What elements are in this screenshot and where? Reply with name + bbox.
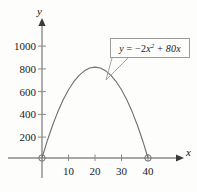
x-axis-tick-label-30: 30 [110, 166, 134, 177]
y-axis-label: y [37, 6, 42, 17]
x-axis-tick-label-40: 40 [136, 166, 160, 177]
y-axis-tick-label-1000: 1000 [4, 41, 36, 52]
equation-term2: 80x [166, 43, 181, 54]
x-axis-tick-label-20: 20 [83, 166, 107, 177]
x-axis-label: x [186, 147, 191, 158]
equation-label: y = −2x2 + 80x [119, 42, 181, 54]
callout-leader-line [106, 58, 128, 80]
parabola-curve [42, 67, 148, 158]
x-axis-tick-label-10: 10 [57, 166, 81, 177]
y-axis-tick-label-400: 400 [4, 109, 36, 120]
equation-coefficient: −2 [135, 43, 146, 54]
equation-callout-box: y = −2x2 + 80x [110, 38, 190, 58]
y-axis-tick-label-600: 600 [4, 87, 36, 98]
chart-figure: 1000 800 600 400 200 10 20 30 40 y x y =… [0, 0, 197, 192]
y-axis-tick-label-800: 800 [4, 64, 36, 75]
y-axis-tick-label-200: 200 [4, 132, 36, 143]
y-axis-arrowhead [38, 18, 45, 26]
x-axis-arrowhead [176, 154, 184, 161]
